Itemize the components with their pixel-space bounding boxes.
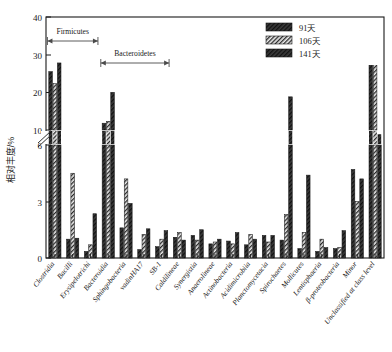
bar [111, 145, 115, 258]
legend-label-141: 141天 [299, 50, 321, 59]
bar [102, 145, 106, 258]
bar-break-connector [289, 131, 293, 144]
bar-upper [57, 63, 61, 130]
bar [156, 247, 160, 258]
bar [218, 239, 222, 258]
bar-break-connector [53, 131, 57, 144]
bar [227, 241, 231, 258]
x-axis-labels: ClostridiaBacilliErysipelotrichiBacteroi… [31, 259, 377, 326]
y-tick-30: 30 [33, 51, 43, 61]
y-tick-3: 3 [38, 198, 43, 208]
legend-swatch-91 [266, 23, 292, 31]
x-axis-label: Clostridia [31, 259, 57, 288]
bar [146, 229, 150, 258]
y-axis-title: 相对丰度/% [5, 137, 16, 184]
bar [316, 251, 320, 258]
legend: 91天 106天 141天 [258, 18, 382, 65]
bar-break-connector [111, 131, 115, 144]
legend-swatch-141 [266, 49, 292, 57]
bar [271, 235, 275, 258]
bracket-label: Bacteroidetes [114, 49, 155, 58]
bar [289, 145, 293, 258]
legend-swatch-106 [266, 36, 292, 44]
bar-break-connector [378, 134, 382, 144]
bar-upper [289, 97, 293, 130]
bar [57, 145, 61, 258]
bar [244, 245, 248, 258]
legend-label-91: 91天 [299, 24, 316, 33]
bar [262, 235, 266, 258]
bar [173, 237, 177, 258]
bar-break-connector [369, 131, 373, 144]
bar [138, 250, 142, 258]
bar [129, 203, 133, 258]
bar [71, 173, 75, 258]
bar-chart-figure: 40 30 20 10 6 3 0 相对丰度/% ClostridiaBacil… [0, 0, 392, 352]
y-tick-20: 20 [33, 88, 43, 98]
bar [106, 145, 110, 258]
bar-upper [102, 123, 106, 130]
chart-svg: 40 30 20 10 6 3 0 相对丰度/% ClostridiaBacil… [0, 0, 392, 352]
bar-upper [49, 72, 53, 130]
bar [93, 214, 97, 258]
x-axis-label: SB-1 [147, 260, 163, 277]
bar [280, 240, 284, 258]
bar [360, 179, 364, 258]
bar [373, 145, 377, 258]
bar-upper [53, 84, 57, 130]
bar [378, 145, 382, 258]
bar [235, 233, 239, 258]
bar [124, 179, 128, 258]
bar [84, 251, 88, 258]
bar-upper [111, 92, 115, 130]
bar [333, 249, 337, 258]
bar [298, 249, 302, 258]
bar-break-connector [106, 131, 110, 144]
y-tick-0: 0 [38, 254, 43, 264]
bar [120, 228, 124, 258]
bar [164, 231, 168, 258]
bar [306, 175, 310, 258]
bar [324, 248, 328, 258]
bar-break-connector [57, 131, 61, 144]
bar-upper [106, 121, 110, 130]
bar [67, 239, 71, 258]
bar [342, 231, 346, 258]
legend-label-106: 106天 [299, 37, 321, 46]
bracket-label: Firmicutes [56, 27, 89, 36]
bar [253, 239, 257, 258]
bar [369, 145, 373, 258]
y-tick-40: 40 [33, 13, 43, 23]
bar [209, 244, 213, 258]
bar [49, 145, 53, 258]
bar [351, 169, 355, 258]
bar [53, 145, 57, 258]
bar [191, 235, 195, 258]
bar-break-connector [373, 131, 377, 144]
bar [356, 202, 360, 259]
bar [75, 238, 79, 258]
bar-break-connector [102, 131, 106, 144]
bar [182, 240, 186, 258]
bar [200, 230, 204, 258]
bar [284, 215, 288, 258]
bar-break-connector [49, 131, 53, 144]
